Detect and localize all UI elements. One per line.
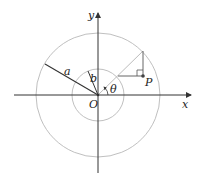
outer-radius-label: a xyxy=(64,65,71,78)
point-p-label: P xyxy=(144,76,153,89)
y-axis-label: y xyxy=(87,9,95,22)
inner-radius-label: b xyxy=(90,72,97,85)
angle-label: θ xyxy=(110,83,117,96)
origin-label: O xyxy=(89,98,98,111)
ellipse-parametric-diagram: y x O a b θ P xyxy=(0,0,200,182)
origin-dot xyxy=(97,94,100,97)
x-axis-label: x xyxy=(182,98,189,111)
